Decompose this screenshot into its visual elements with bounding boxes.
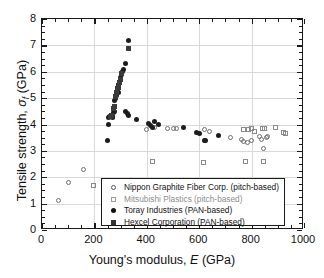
axis-tick-minor [299,210,302,211]
scatter-plot-figure: Young's modulus, E (GPa) Tensile strengt… [0,0,324,278]
axis-tick-major [297,151,302,152]
y-tick-label: 2 [17,170,36,182]
legend: Nippon Graphite Fiber Corp. (pitch-based… [101,178,285,226]
axis-tick-minor [121,19,122,22]
data-point [207,129,212,134]
axis-tick-minor [42,131,45,132]
x-axis-title-prefix: Young's modulus, [89,253,190,267]
data-point [108,114,113,119]
legend-label: Hexcel Corporation (PAN-based) [124,217,245,228]
data-point [150,125,155,130]
axis-tick-minor [299,144,302,145]
data-point [181,125,186,130]
axis-tick-minor [212,19,213,22]
axis-tick-minor [81,225,82,228]
axis-tick-major [42,72,47,73]
y-tick-label: 8 [17,12,36,24]
data-point [134,117,139,122]
axis-tick-minor [299,85,302,86]
axis-tick-minor [42,32,45,33]
axis-tick-minor [291,225,292,228]
axis-tick-major [42,204,47,205]
y-tick-label: 4 [17,118,36,130]
axis-tick-major [42,125,47,126]
axis-tick-minor [278,19,279,22]
data-point [126,38,131,43]
axis-tick-minor [42,65,45,66]
gridline-horizontal [42,72,302,73]
open-square-icon [102,197,124,202]
gridline-vertical [94,19,95,228]
y-tick-label: 5 [17,91,36,103]
axis-tick-minor [42,85,45,86]
axis-tick-major [147,19,148,24]
axis-tick-major [94,19,95,24]
axis-tick-minor [299,171,302,172]
y-tick-label: 7 [17,38,36,50]
axis-tick-major [94,223,95,228]
data-point [111,106,116,111]
axis-tick-major [297,125,302,126]
axis-tick-major [42,98,47,99]
axis-tick-major [297,98,302,99]
data-point [113,94,118,99]
axis-tick-minor [42,157,45,158]
data-point [273,125,278,130]
data-point [144,127,149,132]
axis-tick-minor [42,78,45,79]
axis-tick-minor [299,105,302,106]
axis-tick-minor [42,171,45,172]
data-point [105,138,110,143]
axis-tick-major [252,19,253,24]
legend-item-nippon: Nippon Graphite Fiber Corp. (pitch-based… [102,182,284,193]
axis-tick-minor [299,138,302,139]
data-point [283,131,288,136]
axis-tick-minor [299,32,302,33]
axis-tick-minor [55,225,56,228]
data-point [174,126,179,131]
data-point [252,129,257,134]
axis-tick-minor [42,26,45,27]
data-point [203,138,208,143]
axis-tick-minor [299,59,302,60]
data-point [197,131,202,136]
x-axis-title-suffix: (GPa) [198,253,235,267]
axis-tick-minor [299,52,302,53]
data-point [265,134,270,139]
x-tick-label: 0 [38,233,44,245]
axis-tick-minor [81,19,82,22]
x-tick-label: 400 [137,233,155,245]
axis-tick-minor [134,19,135,22]
axis-tick-minor [42,223,45,224]
axis-tick-minor [42,217,45,218]
data-point [201,160,206,165]
axis-tick-major [42,19,47,20]
axis-tick-minor [42,197,45,198]
axis-tick-minor [299,184,302,185]
axis-tick-minor [225,19,226,22]
axis-tick-minor [299,39,302,40]
axis-tick-major [297,45,302,46]
axis-tick-minor [42,52,45,53]
legend-label: Nippon Graphite Fiber Corp. (pitch-based… [124,182,279,193]
axis-tick-minor [265,19,266,22]
axis-tick-major [297,204,302,205]
axis-tick-major [304,19,305,24]
gridline-horizontal [42,151,302,152]
axis-tick-minor [42,59,45,60]
x-tick-label: 600 [189,233,207,245]
data-point [91,183,96,188]
axis-tick-minor [160,19,161,22]
legend-item-toray: Toray Industries (PAN-based) [102,205,284,216]
x-tick-label: 1000 [291,233,315,245]
axis-tick-minor [42,144,45,145]
legend-label: Toray Industries (PAN-based) [124,205,232,216]
axis-tick-minor [299,26,302,27]
x-tick-label: 800 [241,233,259,245]
y-tick-label: 1 [17,197,36,209]
axis-tick-minor [291,19,292,22]
axis-tick-major [42,230,47,231]
axis-tick-minor [299,164,302,165]
axis-tick-minor [42,111,45,112]
data-point [117,80,122,85]
